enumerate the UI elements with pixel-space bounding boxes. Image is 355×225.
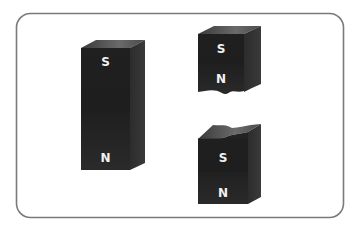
whole-magnet: S N — [81, 40, 145, 170]
lower-piece-north-label: N — [218, 186, 228, 200]
upper-piece-magnet: S N — [198, 26, 261, 94]
diagram-frame — [17, 14, 344, 218]
upper-piece-side-face — [244, 26, 261, 92]
whole-magnet-side-face — [130, 40, 145, 170]
magnet-diagram: S N S N S N — [0, 0, 355, 225]
upper-piece-south-label: S — [217, 42, 226, 56]
lower-piece-south-label: S — [219, 151, 228, 165]
lower-piece-side-face — [248, 124, 261, 204]
whole-magnet-south-label: S — [101, 55, 110, 69]
upper-piece-north-label: N — [216, 72, 226, 86]
lower-piece-magnet: S N — [198, 124, 261, 204]
whole-magnet-north-label: N — [100, 151, 110, 165]
